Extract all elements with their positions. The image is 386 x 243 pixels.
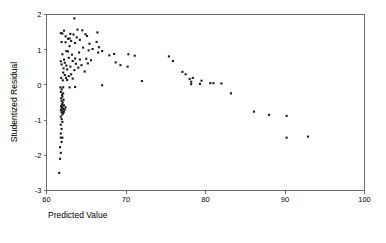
data-point	[61, 137, 63, 139]
data-point	[74, 86, 76, 88]
data-point	[68, 57, 70, 59]
data-point	[59, 86, 61, 88]
data-point	[72, 34, 74, 36]
y-tick-label: -1	[35, 116, 42, 125]
data-point	[62, 79, 64, 81]
data-point	[92, 48, 94, 50]
data-point	[69, 33, 71, 35]
x-axis-ticks: 60708090100	[42, 191, 370, 205]
data-point	[60, 91, 62, 93]
data-point	[80, 64, 82, 66]
y-axis-title: Studentized Residual	[9, 62, 19, 142]
data-point	[185, 73, 187, 75]
y-tick-label: 1	[37, 46, 41, 55]
y-tick-label: 2	[37, 10, 41, 19]
data-point	[62, 86, 64, 88]
data-point	[84, 33, 86, 35]
data-point	[61, 141, 63, 143]
data-point	[68, 75, 70, 77]
data-point	[58, 172, 60, 174]
data-point	[63, 99, 65, 101]
data-point	[101, 50, 103, 52]
data-point	[75, 63, 77, 65]
data-point	[268, 114, 270, 116]
data-point	[79, 39, 81, 41]
data-point	[72, 78, 74, 80]
data-point	[212, 82, 214, 84]
data-points-layer	[58, 17, 309, 174]
data-point	[220, 82, 222, 84]
x-axis-title: Predicted Value	[48, 210, 108, 220]
data-point	[81, 29, 83, 31]
data-point	[141, 80, 143, 82]
data-point	[96, 31, 98, 33]
data-point	[59, 146, 61, 148]
data-point	[70, 40, 72, 42]
data-point	[59, 158, 61, 160]
data-point	[209, 82, 211, 84]
y-axis-ticks: 210-1-2-3	[35, 10, 47, 195]
data-point	[61, 118, 63, 120]
data-point	[113, 53, 115, 55]
data-point	[69, 37, 71, 39]
data-point	[286, 115, 288, 117]
data-point	[85, 58, 87, 60]
data-point	[76, 36, 78, 38]
data-point	[70, 73, 72, 75]
data-point	[61, 63, 63, 65]
plot-frame	[47, 15, 365, 191]
data-point	[63, 59, 65, 61]
data-point	[71, 54, 73, 56]
data-point	[64, 74, 66, 76]
data-point	[62, 92, 64, 94]
data-point	[61, 88, 63, 90]
data-point	[181, 71, 183, 73]
data-point	[168, 55, 170, 57]
data-point	[73, 69, 75, 71]
data-point	[61, 121, 63, 123]
data-point	[79, 59, 81, 61]
data-point	[72, 60, 74, 62]
data-point	[60, 32, 62, 34]
data-point	[190, 81, 192, 83]
data-point	[78, 51, 80, 53]
y-tick-label: 0	[37, 81, 41, 90]
data-point	[307, 136, 309, 138]
data-point	[65, 35, 67, 37]
data-point	[69, 86, 71, 88]
data-point	[61, 41, 63, 43]
x-tick-label: 90	[281, 195, 289, 204]
data-point	[88, 43, 90, 45]
data-point	[192, 77, 194, 79]
scatter-chart: 210-1-2-3 60708090100 Predicted Value St…	[0, 0, 386, 243]
x-tick-label: 100	[358, 195, 371, 204]
data-point	[63, 67, 65, 69]
x-tick-label: 60	[42, 195, 50, 204]
data-point	[64, 62, 66, 64]
data-point	[190, 83, 192, 85]
data-point	[134, 55, 136, 57]
data-point	[200, 80, 202, 82]
data-point	[62, 72, 64, 74]
data-point	[74, 42, 76, 44]
data-point	[61, 53, 63, 55]
data-point	[61, 128, 63, 130]
data-point	[77, 67, 79, 69]
data-point	[60, 77, 62, 79]
data-point	[189, 78, 191, 80]
data-point	[98, 46, 100, 48]
data-point	[119, 64, 121, 66]
data-point	[108, 54, 110, 56]
data-point	[90, 59, 92, 61]
y-tick-label: -2	[35, 151, 42, 160]
data-point	[60, 132, 62, 134]
data-point	[87, 62, 89, 64]
data-point	[253, 111, 255, 113]
data-point	[65, 106, 67, 108]
data-point	[73, 17, 75, 19]
data-point	[101, 84, 103, 86]
plot-canvas: 210-1-2-3 60708090100 Predicted Value St…	[0, 0, 386, 243]
data-point	[88, 49, 90, 51]
data-point	[63, 104, 65, 106]
data-point	[286, 137, 288, 139]
